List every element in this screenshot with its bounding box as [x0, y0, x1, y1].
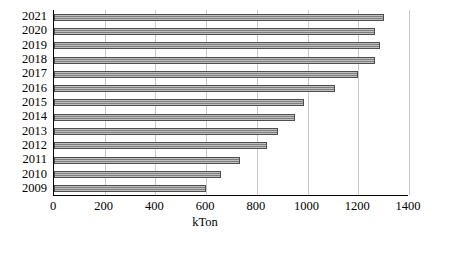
bar-2014[interactable] — [54, 114, 295, 121]
bar-2011[interactable] — [54, 157, 240, 164]
bar-2012[interactable] — [54, 142, 267, 149]
x-tick-600: 600 — [196, 199, 215, 213]
plot-area — [53, 10, 408, 196]
y-tick-2014: 2014 — [22, 110, 47, 123]
x-axis-title: kTon — [0, 215, 450, 230]
bar-row — [54, 96, 408, 110]
bar-row — [54, 124, 408, 138]
bar-2019[interactable] — [54, 42, 380, 49]
bar-2009[interactable] — [54, 185, 206, 192]
bar-chart: 2021202020192018201720162015201420132012… — [0, 0, 450, 260]
x-tick-0: 0 — [50, 199, 56, 213]
y-tick-2013: 2013 — [22, 125, 47, 138]
bar-row — [54, 10, 408, 24]
bar-series — [54, 10, 408, 195]
y-tick-2020: 2020 — [22, 24, 47, 37]
x-tick-1000: 1000 — [294, 199, 319, 213]
bar-2017[interactable] — [54, 71, 358, 78]
bar-2016[interactable] — [54, 85, 335, 92]
x-tick-1400: 1400 — [396, 199, 421, 213]
bar-2013[interactable] — [54, 128, 278, 135]
y-axis-tick-labels: 2021202020192018201720162015201420132012… — [0, 10, 50, 196]
y-tick-2012: 2012 — [22, 139, 47, 152]
bar-row — [54, 53, 408, 67]
x-axis-title-text: kTon — [192, 215, 218, 229]
bar-row — [54, 182, 408, 196]
bar-2015[interactable] — [54, 99, 304, 106]
bar-2021[interactable] — [54, 14, 384, 21]
x-tick-1200: 1200 — [345, 199, 370, 213]
gridline-1400 — [409, 10, 410, 195]
bar-row — [54, 110, 408, 124]
x-tick-800: 800 — [246, 199, 265, 213]
y-tick-2016: 2016 — [22, 82, 47, 95]
y-tick-2010: 2010 — [22, 168, 47, 181]
x-tick-200: 200 — [94, 199, 113, 213]
y-tick-2017: 2017 — [22, 67, 47, 80]
y-tick-2018: 2018 — [22, 53, 47, 66]
y-tick-2009: 2009 — [22, 182, 47, 195]
bar-2020[interactable] — [54, 28, 375, 35]
y-tick-2021: 2021 — [22, 10, 47, 23]
bar-row — [54, 39, 408, 53]
bar-row — [54, 153, 408, 167]
bar-row — [54, 67, 408, 81]
bar-2010[interactable] — [54, 171, 221, 178]
y-tick-2011: 2011 — [22, 153, 47, 166]
bar-row — [54, 24, 408, 38]
bar-2018[interactable] — [54, 57, 375, 64]
bar-row — [54, 82, 408, 96]
x-tick-400: 400 — [145, 199, 164, 213]
bar-row — [54, 139, 408, 153]
y-tick-2015: 2015 — [22, 96, 47, 109]
bar-row — [54, 167, 408, 181]
y-tick-2019: 2019 — [22, 39, 47, 52]
